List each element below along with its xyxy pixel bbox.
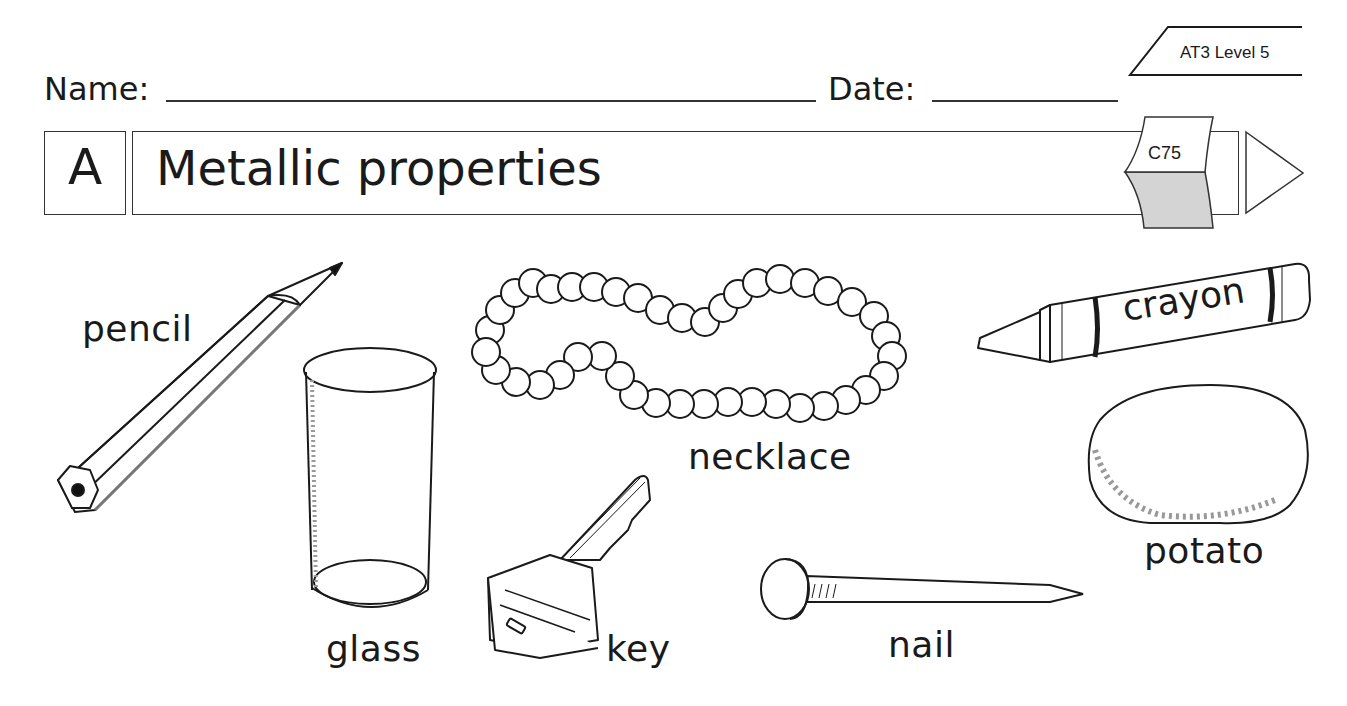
potato-label: potato — [1144, 530, 1264, 571]
code-tab-shape — [0, 0, 1347, 240]
code-tab: C75 — [1148, 143, 1181, 164]
crayon-label: crayon — [1120, 269, 1248, 329]
pencil-label: pencil — [82, 308, 193, 349]
key-label: key — [606, 628, 671, 669]
necklace-label: necklace — [688, 436, 852, 477]
glass-label: glass — [326, 628, 421, 669]
nail-label: nail — [888, 624, 955, 665]
